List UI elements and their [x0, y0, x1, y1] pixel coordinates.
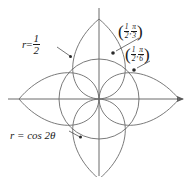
label-circle-denominator: 2 — [33, 45, 41, 57]
label-point-1-r-denominator: 2 — [124, 32, 130, 40]
intersection-point-pi-over-3 — [111, 51, 115, 55]
label-point-pi-over-6: (12,π6) — [125, 46, 150, 63]
leader-dot-circle-label — [69, 55, 72, 58]
label-circle-equation: r=12 — [22, 33, 40, 57]
label-point-2-r-fraction: 12 — [131, 46, 137, 63]
leader-line-circle-label — [57, 47, 70, 56]
label-circle-fraction: 12 — [33, 33, 41, 57]
label-point-1-r-fraction: 12 — [124, 23, 130, 40]
label-point-2-r-denominator: 2 — [131, 55, 137, 63]
leader-arrow-dots — [69, 55, 82, 139]
polar-plot-figure — [0, 0, 196, 177]
label-rose-equation: r = cos 2θ — [10, 130, 56, 141]
label-point-pi-over-3: (12,π3) — [118, 23, 143, 40]
leader-line-rose-label — [69, 131, 80, 137]
leader-dot-rose-label — [79, 136, 82, 139]
label-point-2-close-paren: ) — [144, 45, 150, 64]
intersection-point-pi-over-6 — [132, 68, 136, 72]
label-point-1-close-paren: ) — [137, 22, 143, 41]
